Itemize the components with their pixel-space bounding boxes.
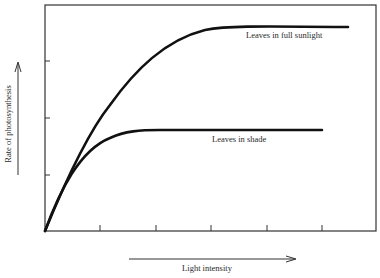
- y-axis-label: Rate of photosynthesis: [3, 85, 13, 162]
- plot-frame: [45, 5, 376, 231]
- photosynthesis-chart: Leaves in full sunlight Leaves in shade …: [0, 0, 380, 278]
- x-axis-ticks: [100, 225, 322, 231]
- shade-label: Leaves in shade: [212, 134, 267, 144]
- shade-curve: [45, 130, 322, 231]
- x-axis-arrow: [129, 256, 296, 262]
- y-axis-ticks: [45, 61, 50, 175]
- sunlight-label: Leaves in full sunlight: [246, 30, 323, 40]
- y-axis-arrow: [15, 62, 21, 175]
- x-axis-label: Light intensity: [182, 263, 233, 273]
